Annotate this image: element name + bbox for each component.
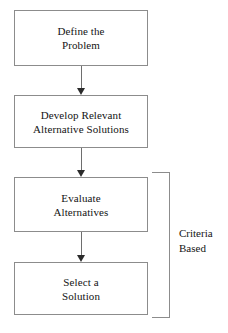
flowchart-canvas: Define the Problem Develop Relevant Alte… xyxy=(0,0,228,333)
process-node-label: Evaluate Alternatives xyxy=(50,191,113,219)
arrow-head-icon xyxy=(77,255,85,262)
arrow-node1-to-node2 xyxy=(75,66,88,95)
process-node-label: Select a Solution xyxy=(58,275,104,303)
bracket-arm-top xyxy=(152,172,170,173)
process-node-label: Define the Problem xyxy=(53,24,108,52)
arrow-node3-to-node4 xyxy=(75,232,88,262)
bracket-spine xyxy=(169,172,170,318)
process-node-evaluate-alternatives[interactable]: Evaluate Alternatives xyxy=(14,177,148,232)
arrow-shaft xyxy=(81,66,82,89)
arrow-head-icon xyxy=(77,170,85,177)
grouping-bracket-caption: Criteria Based xyxy=(179,226,228,256)
arrow-shaft xyxy=(81,232,82,256)
grouping-bracket xyxy=(152,172,170,318)
arrow-shaft xyxy=(81,148,82,171)
bracket-arm-bottom xyxy=(152,317,170,318)
process-node-select-a-solution[interactable]: Select a Solution xyxy=(14,262,148,315)
process-node-label: Develop Relevant Alternative Solutions xyxy=(29,108,133,136)
arrow-node2-to-node3 xyxy=(75,148,88,177)
process-node-define-the-problem[interactable]: Define the Problem xyxy=(14,10,148,66)
arrow-head-icon xyxy=(77,88,85,95)
process-node-develop-relevant-alternative-solutions[interactable]: Develop Relevant Alternative Solutions xyxy=(14,95,148,148)
